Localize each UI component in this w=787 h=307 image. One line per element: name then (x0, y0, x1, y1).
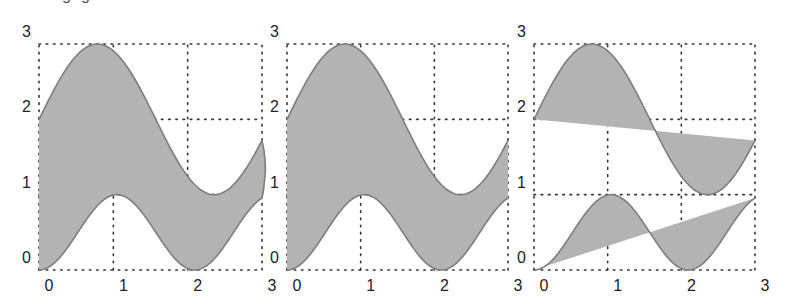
x-tick-label: 2 (193, 277, 202, 294)
x-tick-label: 0 (45, 277, 54, 294)
y-tick-label: 3 (270, 23, 279, 40)
y-tick-label: 1 (517, 174, 526, 191)
x-tick-label: 2 (687, 277, 696, 294)
x-tick-label: 3 (514, 277, 523, 294)
panel-straight-closed: 01230123 (270, 23, 522, 294)
panel-chord-fill: 01230123 (517, 23, 769, 294)
x-tick-label: 3 (268, 277, 277, 294)
y-tick-label: 1 (270, 174, 279, 191)
y-tick-label: 1 (22, 174, 31, 191)
x-tick-label: 0 (293, 277, 302, 294)
x-tick-label: 2 (440, 277, 449, 294)
y-tick-label: 2 (270, 98, 279, 115)
y-tick-label: 3 (22, 23, 31, 40)
fill-band (287, 44, 508, 270)
y-tick-label: 3 (517, 23, 526, 40)
x-tick-label: 1 (613, 277, 622, 294)
fill-lower-chord (534, 195, 755, 270)
y-tick-label: 2 (22, 98, 31, 115)
x-tick-label: 3 (761, 277, 770, 294)
y-tick-label: 0 (270, 249, 279, 266)
x-tick-label: 1 (366, 277, 375, 294)
y-tick-label: 2 (517, 98, 526, 115)
y-tick-label: 0 (517, 249, 526, 266)
x-tick-label: 1 (119, 277, 128, 294)
x-tick-label: 0 (540, 277, 549, 294)
panel-smooth-closed: 01230123 (22, 23, 276, 294)
y-tick-label: 0 (22, 249, 31, 266)
figure: 01230123 01230123 01230123 (0, 0, 787, 307)
